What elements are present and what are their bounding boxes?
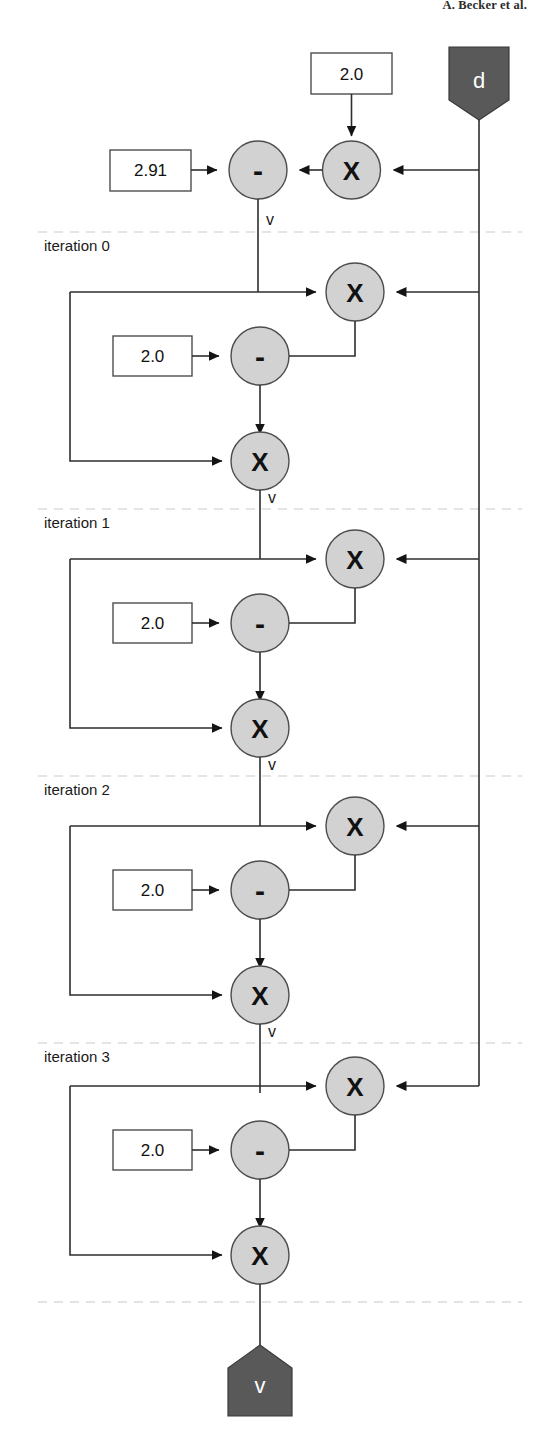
iter0-edge-label-v: v [268, 489, 276, 506]
iter2-sub-node[interactable]: - [231, 861, 289, 919]
iter2-sub-label: - [255, 874, 265, 907]
iter2-mul-bottom-node[interactable]: X [231, 966, 289, 1024]
iter1-mul-bottom-label: X [251, 714, 269, 744]
iter0-sub-node[interactable]: - [231, 327, 289, 385]
input-terminal-d[interactable]: d [449, 47, 509, 120]
iter0-sub-label: - [255, 340, 265, 373]
const-box-top-value: 2.0 [340, 65, 364, 84]
sub-node-top[interactable]: - [229, 141, 287, 199]
iter3-rail-to-mulbot-edge [70, 1242, 222, 1255]
iter3-multop-to-sub-edge [289, 1115, 355, 1150]
const-box-top[interactable]: 2.0 [311, 53, 392, 94]
sub-node-top-label: - [253, 154, 263, 187]
iter0-const-box[interactable]: 2.0 [113, 336, 192, 376]
iter0-mul-bottom-label: X [251, 447, 269, 477]
iteration-label-3: iteration 3 [44, 1048, 110, 1065]
iter3-sub-node[interactable]: - [231, 1121, 289, 1179]
iter1-edge-label-v: v [268, 756, 276, 773]
iter1-mul-bottom-node[interactable]: X [231, 699, 289, 757]
iteration-label-2: iteration 2 [44, 781, 110, 798]
output-terminal-label: v [255, 1373, 266, 1398]
iter3-mul-top-node[interactable]: X [326, 1057, 384, 1115]
iter0-multop-to-sub-edge [289, 321, 355, 356]
iter3-mul-bottom-label: X [251, 1241, 269, 1271]
mul-node-top-label: X [343, 156, 361, 186]
iter3-sub-label: - [255, 1134, 265, 1167]
iter3-mul-top-label: X [346, 1072, 364, 1102]
iter2-mul-bottom-label: X [251, 981, 269, 1011]
iter0-mul-bottom-node[interactable]: X [231, 432, 289, 490]
iter2-mul-top-node[interactable]: X [326, 797, 384, 855]
iter1-sub-node[interactable]: - [231, 594, 289, 652]
input-terminal-label: d [473, 68, 485, 93]
iter1-const-value: 2.0 [141, 614, 165, 633]
iter1-rail-to-mulbot-edge [70, 715, 222, 728]
iter3-const-box[interactable]: 2.0 [113, 1130, 192, 1170]
mul-node-top[interactable]: X [323, 141, 381, 199]
iter1-mul-top-node[interactable]: X [326, 530, 384, 588]
computation-graph: d 2.0 X - 2.91 v iteration 0 X [0, 0, 535, 1435]
iter2-rail-to-mulbot-edge [70, 982, 222, 995]
iter1-sub-label: - [255, 607, 265, 640]
iter3-const-value: 2.0 [141, 1141, 165, 1160]
iter1-multop-to-sub-edge [289, 588, 355, 623]
iter3-mul-bottom-node[interactable]: X [231, 1226, 289, 1284]
const-box-seed-value: 2.91 [134, 161, 167, 180]
iter1-mul-top-label: X [346, 545, 364, 575]
iter2-mul-top-label: X [346, 812, 364, 842]
const-box-seed[interactable]: 2.91 [110, 150, 191, 191]
iter2-edge-label-v: v [268, 1023, 276, 1040]
iter1-const-box[interactable]: 2.0 [113, 603, 192, 643]
iteration-label-0: iteration 0 [44, 237, 110, 254]
output-terminal-v[interactable]: v [228, 1345, 292, 1416]
iter0-mul-top-node[interactable]: X [326, 263, 384, 321]
iteration-label-1: iteration 1 [44, 514, 110, 531]
iter0-mul-top-label: X [346, 278, 364, 308]
iter0-rail-to-mulbot-edge [70, 448, 222, 461]
iter0-const-value: 2.0 [141, 347, 165, 366]
iter2-multop-to-sub-edge [289, 855, 355, 890]
iter2-const-value: 2.0 [141, 881, 165, 900]
iter2-const-box[interactable]: 2.0 [113, 870, 192, 910]
edge-label-v: v [266, 211, 274, 228]
